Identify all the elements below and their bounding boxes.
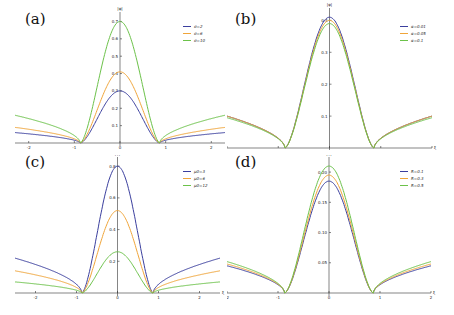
x-axis-label: ξ: [222, 290, 224, 295]
legend-swatch: [183, 40, 191, 41]
legend-entry: R=0.1: [400, 168, 424, 175]
legend-label: σ=2: [194, 24, 202, 29]
x-tick-label: 2: [210, 145, 213, 150]
legend-swatch: [400, 26, 408, 27]
legend-label: α=0.01: [411, 24, 426, 29]
panel-a: -2-10120.10.20.30.40.50.60.7|φ|ξ(a)σ=2σ=…: [0, 0, 227, 150]
legend-label: μ0=12: [194, 183, 208, 188]
legend-entry: σ=10: [183, 37, 205, 44]
x-tick-label: 0: [119, 145, 122, 150]
y-tick-label: 0.3: [321, 50, 328, 55]
x-tick-label: 1: [164, 145, 167, 150]
legend-swatch: [400, 185, 408, 186]
panel-label: (c): [25, 153, 45, 171]
legend-entry: σ=2: [183, 23, 205, 30]
legend: R=0.1R=0.3R=0.5: [400, 168, 424, 189]
y-axis-label: |φ|: [115, 155, 120, 156]
legend-label: R=0.5: [411, 183, 424, 188]
legend-entry: μ0=3: [183, 168, 208, 175]
legend-entry: α=0.01: [400, 23, 426, 30]
y-tick-label: 0.6: [112, 36, 119, 41]
legend-swatch: [183, 178, 191, 179]
y-tick-label: 0.2: [109, 259, 116, 264]
y-tick-label: 0.2: [321, 82, 328, 87]
y-axis-label: |φ|: [327, 2, 332, 7]
legend-entry: σ=6: [183, 30, 205, 37]
y-tick-label: 0.6: [109, 195, 116, 200]
y-tick-label: 0.10: [318, 230, 327, 235]
legend-swatch: [400, 178, 408, 179]
legend-swatch: [183, 171, 191, 172]
panel-label: (d): [235, 153, 256, 171]
legend: μ0=3μ0=6μ0=12: [183, 168, 208, 189]
y-tick-label: 0.05: [318, 260, 327, 265]
y-tick-label: 0.1: [112, 123, 119, 128]
legend-label: α=0.05: [411, 31, 426, 36]
legend-label: R=0.3: [411, 176, 424, 181]
legend-swatch: [400, 40, 408, 41]
y-axis-label: |φ|: [117, 6, 122, 11]
y-tick-label: 0.5: [112, 54, 119, 59]
y-tick-label: 0.15: [318, 200, 327, 205]
y-tick-label: 0.7: [112, 19, 119, 24]
x-tick-label: -1: [72, 145, 76, 150]
legend-entry: μ0=12: [183, 182, 208, 189]
legend-swatch: [400, 171, 408, 172]
legend-entry: α=0.1: [400, 37, 426, 44]
legend-entry: R=0.3: [400, 175, 424, 182]
legend-label: α=0.1: [411, 38, 423, 43]
legend-label: μ0=3: [194, 169, 205, 174]
legend-entry: μ0=6: [183, 175, 208, 182]
legend-label: σ=6: [194, 31, 202, 36]
y-tick-label: 0.4: [109, 227, 116, 232]
panel-label: (b): [235, 10, 256, 28]
legend-swatch: [400, 33, 408, 34]
legend-label: μ0=6: [194, 176, 205, 181]
legend-entry: R=0.5: [400, 182, 424, 189]
y-axis-label: |φ|: [326, 155, 331, 156]
legend-swatch: [183, 185, 191, 186]
legend-swatch: [183, 26, 191, 27]
legend-label: σ=10: [194, 38, 205, 43]
legend-entry: α=0.05: [400, 30, 426, 37]
legend: σ=2σ=6σ=10: [183, 23, 205, 44]
legend-swatch: [183, 33, 191, 34]
x-axis-label: ξ: [433, 290, 435, 295]
y-tick-label: 0.2: [112, 106, 119, 111]
legend-label: R=0.1: [411, 169, 424, 174]
panel-label: (a): [25, 10, 46, 28]
panel-d: -2-10120.050.100.150.20|φ|ξ(d)R=0.1R=0.3…: [227, 155, 454, 305]
panel-c: -2-10120.20.40.60.8|φ|ξ(c)μ0=3μ0=6μ0=12: [0, 155, 227, 305]
figure-caption: [4, 300, 450, 312]
x-axis-label: ξ: [434, 145, 436, 150]
x-tick-label: -2: [27, 145, 31, 150]
y-tick-label: 0.1: [321, 114, 328, 119]
legend: α=0.01α=0.05α=0.1: [400, 23, 426, 44]
panel-b: -2-10120.10.20.30.4|φ|ξ(b)α=0.01α=0.05α=…: [227, 0, 454, 150]
